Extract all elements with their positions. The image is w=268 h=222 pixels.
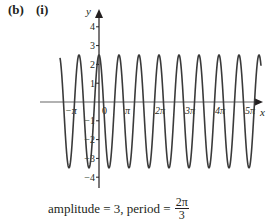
x-tick-label: −π (65, 105, 78, 116)
x-axis-label: x (259, 106, 265, 118)
period-fraction: 2π 3 (175, 196, 189, 221)
caption: amplitude = 3, period = 2π 3 (48, 196, 189, 221)
sine-graph: 4321−1−2−3−4 −π0π2π3π4π5π x y (0, 0, 268, 222)
y-axis-label: y (85, 5, 91, 17)
y-tick-label: 4 (90, 21, 95, 32)
y-tick-label: 2 (90, 59, 95, 70)
y-tick-label: −4 (84, 172, 95, 183)
y-tick-label: 1 (90, 78, 95, 89)
y-tick-label: 3 (90, 40, 95, 51)
caption-text: amplitude = 3, period = (48, 201, 171, 217)
y-axis-arrow-icon (95, 9, 103, 18)
x-tick-label: π (125, 105, 131, 116)
